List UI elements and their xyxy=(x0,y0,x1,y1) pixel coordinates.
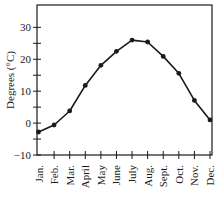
y-tick-label: 10 xyxy=(20,85,32,97)
data-point-marker xyxy=(192,98,197,103)
data-point-marker xyxy=(83,83,88,88)
data-point-marker xyxy=(208,117,213,122)
data-point-marker xyxy=(145,40,150,45)
temperature-line-chart: −100102030 Jan.Feb.Mar.AprilMayJuneJulyA… xyxy=(0,0,216,201)
data-point-marker xyxy=(98,63,103,68)
x-tick-label: Feb. xyxy=(48,165,60,185)
x-tick-label: May xyxy=(95,165,107,186)
y-tick-label: −10 xyxy=(14,149,32,161)
data-point-marker xyxy=(52,123,57,128)
data-point-marker xyxy=(161,54,166,59)
x-tick-label: Oct. xyxy=(173,165,185,184)
data-point-marker xyxy=(36,130,41,135)
y-tick-label: 0 xyxy=(26,117,32,129)
data-point-marker xyxy=(114,49,119,54)
x-tick-label: June xyxy=(110,165,122,185)
plot-border xyxy=(37,5,212,155)
data-point-marker xyxy=(176,71,181,76)
x-tick-label: April xyxy=(79,165,91,188)
x-axis: Jan.Feb.Mar.AprilMayJuneJulyAug.Sept.Oct… xyxy=(33,151,217,188)
x-tick-label: Aug. xyxy=(142,165,154,187)
data-series xyxy=(36,38,212,135)
data-point-marker xyxy=(130,38,135,43)
x-tick-label: July xyxy=(126,165,138,184)
x-tick-label: Dec. xyxy=(204,165,216,186)
plot-frame xyxy=(37,5,212,155)
y-axis-label: Degrees (°C) xyxy=(4,51,17,109)
data-point-marker xyxy=(67,109,72,114)
x-tick-label: Sept. xyxy=(157,165,169,188)
y-tick-label: 20 xyxy=(20,53,32,65)
chart-canvas: −100102030 Jan.Feb.Mar.AprilMayJuneJulyA… xyxy=(0,0,216,201)
x-tick-label: Nov. xyxy=(188,165,200,186)
x-tick-label: Mar. xyxy=(64,165,76,186)
temperature-line xyxy=(39,40,211,132)
y-tick-label: 30 xyxy=(20,21,32,33)
x-tick-label: Jan. xyxy=(33,165,45,183)
